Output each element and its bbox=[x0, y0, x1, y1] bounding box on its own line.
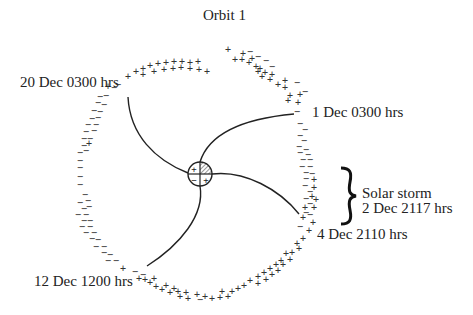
svg-text:−: − bbox=[255, 51, 261, 62]
spiral-line-1dec bbox=[200, 114, 294, 162]
svg-text:+: + bbox=[125, 71, 131, 82]
svg-text:+: + bbox=[151, 273, 157, 284]
svg-text:+: + bbox=[246, 57, 252, 68]
svg-text:+: + bbox=[151, 66, 157, 77]
svg-text:+: + bbox=[275, 265, 281, 276]
svg-text:−: − bbox=[140, 269, 146, 280]
svg-text:+: + bbox=[217, 292, 223, 303]
orbit-diagram: ++++++++++ ++++++++ +++ +++++ +++++ ++++… bbox=[0, 0, 473, 315]
svg-text:+: + bbox=[306, 225, 312, 236]
svg-text:+: + bbox=[235, 283, 241, 294]
svg-text:+: + bbox=[275, 79, 281, 90]
svg-text:+: + bbox=[163, 280, 169, 291]
label-20-dec: 20 Dec 0300 hrs bbox=[20, 74, 119, 90]
svg-text:+: + bbox=[204, 66, 210, 77]
svg-text:−: − bbox=[269, 61, 275, 72]
svg-text:−: − bbox=[247, 46, 253, 57]
spiral-lines bbox=[128, 97, 299, 266]
central-body: + − + bbox=[188, 162, 212, 186]
svg-text:+: + bbox=[241, 280, 247, 291]
label-12-dec: 12 Dec 1200 hrs bbox=[34, 273, 133, 289]
svg-text:+: + bbox=[140, 69, 146, 80]
svg-text:+: + bbox=[267, 74, 273, 85]
svg-text:+: + bbox=[194, 289, 200, 300]
svg-text:+: + bbox=[203, 175, 209, 185]
svg-text:+: + bbox=[183, 287, 189, 298]
svg-text:+: + bbox=[247, 275, 253, 286]
svg-text:+: + bbox=[285, 95, 291, 106]
svg-text:−: − bbox=[105, 255, 111, 266]
svg-text:+: + bbox=[232, 54, 238, 65]
svg-text:+: + bbox=[187, 63, 193, 74]
spiral-line-12dec bbox=[147, 186, 201, 266]
svg-text:+: + bbox=[225, 291, 231, 302]
brace-icon bbox=[341, 168, 356, 224]
spiral-line-20dec bbox=[128, 97, 188, 173]
svg-text:+: + bbox=[191, 164, 197, 174]
svg-text:+: + bbox=[196, 64, 202, 75]
svg-text:+: + bbox=[178, 62, 184, 73]
svg-text:+: + bbox=[259, 71, 265, 82]
svg-text:−: − bbox=[294, 77, 300, 88]
svg-text:−: − bbox=[297, 221, 303, 232]
svg-text:+: + bbox=[225, 44, 231, 55]
diagram-title: Orbit 1 bbox=[203, 7, 246, 23]
svg-text:−: − bbox=[302, 86, 308, 97]
svg-text:+: + bbox=[287, 254, 293, 265]
label-solar-storm: Solar storm bbox=[362, 185, 432, 201]
svg-text:+: + bbox=[263, 274, 269, 285]
svg-text:−: − bbox=[113, 255, 119, 266]
svg-text:+: + bbox=[170, 63, 176, 74]
svg-text:+: + bbox=[161, 64, 167, 75]
svg-text:+: + bbox=[296, 243, 302, 254]
label-4-dec: 4 Dec 2110 hrs bbox=[317, 226, 408, 242]
svg-text:+: + bbox=[239, 54, 245, 65]
svg-text:+: + bbox=[209, 293, 215, 304]
label-storm-time: 2 Dec 2117 hrs bbox=[362, 200, 453, 216]
svg-text:−: − bbox=[83, 145, 89, 156]
svg-text:+: + bbox=[171, 283, 177, 294]
svg-text:+: + bbox=[269, 269, 275, 280]
label-1-dec: 1 Dec 0300 hrs bbox=[312, 104, 403, 120]
svg-text:−: − bbox=[294, 106, 300, 117]
svg-text:−: − bbox=[93, 241, 99, 252]
svg-text:−: − bbox=[191, 175, 197, 185]
svg-text:+: + bbox=[133, 66, 139, 77]
svg-text:+: + bbox=[255, 278, 261, 289]
spiral-line-4dec bbox=[212, 173, 299, 214]
